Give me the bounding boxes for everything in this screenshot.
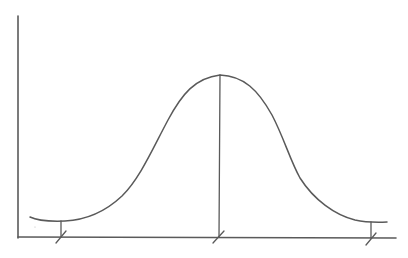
right-marker [366,222,376,245]
diagram-svg [0,0,408,258]
x-axis [18,237,396,238]
bell-curve [30,75,387,222]
center-marker [213,75,224,243]
left-marker [56,221,66,243]
mean-line [219,75,220,237]
bell-curve-diagram [0,0,408,258]
speck [34,226,35,227]
